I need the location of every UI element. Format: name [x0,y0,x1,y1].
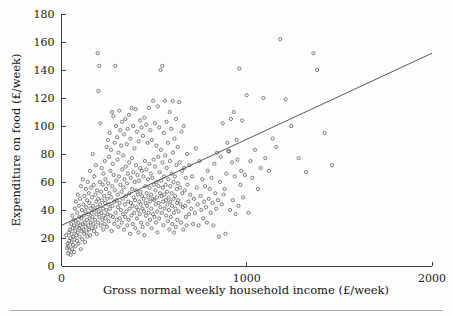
y-tick-label: 160 [34,36,55,49]
scatter-plot-figure: 020406080100120140160180 010002000 Gross… [0,0,453,316]
x-tick-label: 0 [58,272,65,285]
y-tick-label: 0 [48,260,55,273]
y-tick-label: 60 [41,176,55,189]
y-tick-label: 80 [41,148,55,161]
x-axis-title: Gross normal weekly household income (£/… [103,283,389,297]
y-axis-title: Expenditure on food (£/week) [9,53,23,226]
y-tick-label: 100 [34,120,55,133]
y-tick-label: 180 [34,8,55,21]
y-tick-label: 20 [41,232,55,245]
y-tick-label: 140 [34,64,55,77]
y-tick-label: 120 [34,92,55,105]
plot-canvas: 020406080100120140160180 010002000 Gross… [0,0,453,316]
x-tick-label: 2000 [418,272,446,285]
figure-background [0,0,453,316]
y-tick-label: 40 [41,204,55,217]
